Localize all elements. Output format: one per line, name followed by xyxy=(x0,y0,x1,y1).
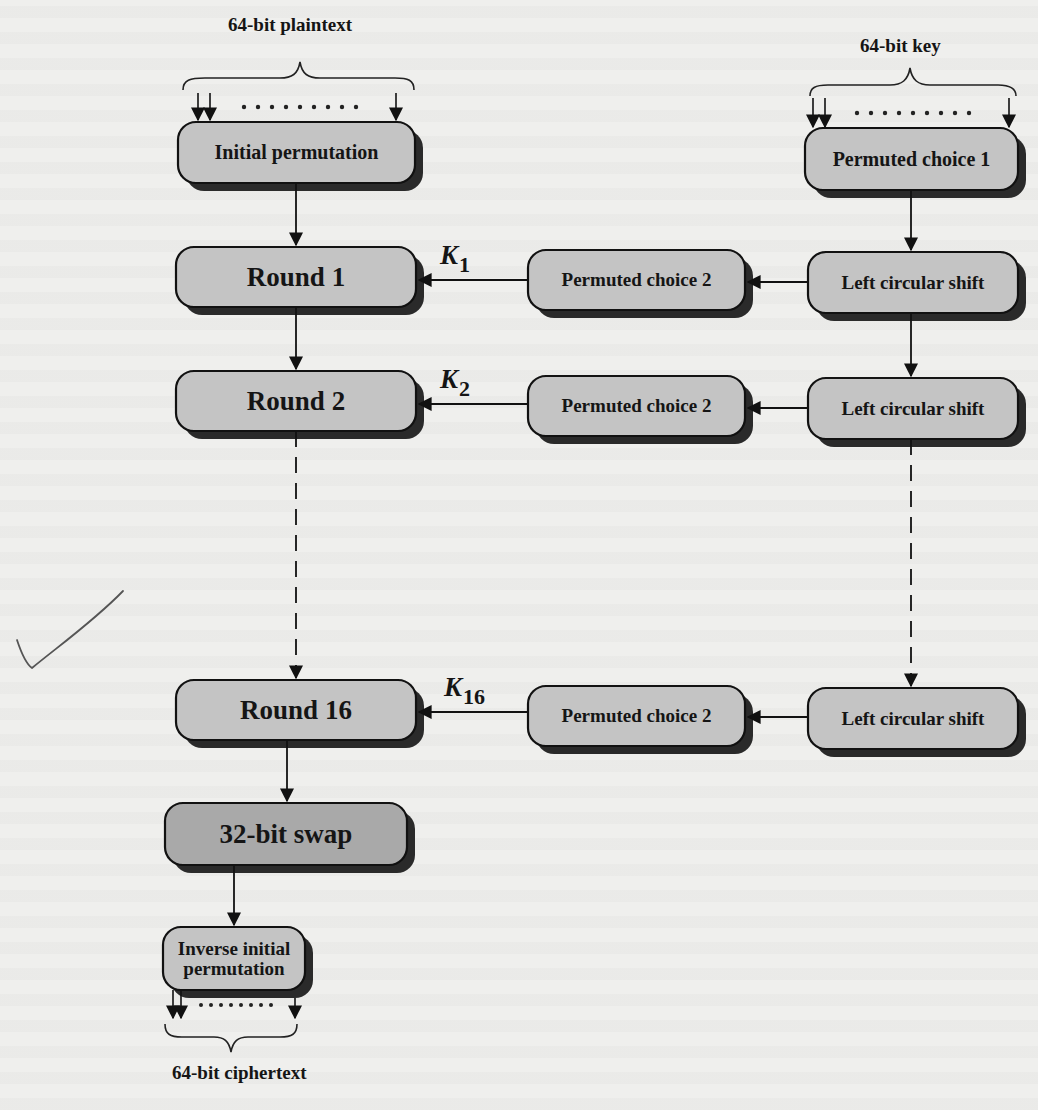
checkmark-annotation-icon xyxy=(17,591,123,668)
inverse-initial-permutation-label: Inverse initial permutation xyxy=(172,927,296,990)
plaintext-label: 64-bit plaintext xyxy=(228,14,352,36)
left-circular-shift-label-1: Left circular shift xyxy=(808,252,1018,313)
ciphertext-brace xyxy=(165,1024,297,1052)
subkey-k1-label: K1 xyxy=(440,240,470,271)
swap-32bit-label: 32-bit swap xyxy=(165,803,407,865)
subkey-k1-symbol: K xyxy=(440,240,458,270)
ciphertext-label: 64-bit ciphertext xyxy=(172,1062,307,1084)
round-1-label: Round 1 xyxy=(176,247,416,307)
permuted-choice-2-label-2: Permuted choice 2 xyxy=(528,376,745,436)
left-circular-shift-label-2: Left circular shift xyxy=(808,378,1018,439)
permuted-choice-2-label-1: Permuted choice 2 xyxy=(528,250,745,310)
subkey-k16-index: 16 xyxy=(463,684,485,709)
subkey-k2-symbol: K xyxy=(440,364,458,394)
ciphertext-bit-dots xyxy=(199,1003,273,1007)
left-circular-shift-label-16: Left circular shift xyxy=(808,688,1018,749)
round-16-label: Round 16 xyxy=(176,680,416,740)
subkey-connectors xyxy=(419,280,808,717)
subkey-k2-index: 2 xyxy=(459,376,470,401)
initial-permutation-label: Initial permutation xyxy=(178,122,415,183)
subkey-k2-label: K2 xyxy=(440,364,470,395)
permuted-choice-1-label: Permuted choice 1 xyxy=(805,128,1018,190)
plaintext-brace xyxy=(183,62,414,90)
subkey-k1-index: 1 xyxy=(459,252,470,277)
permuted-choice-2-label-16: Permuted choice 2 xyxy=(528,686,745,746)
subkey-k16-label: K16 xyxy=(444,672,485,703)
key-brace xyxy=(810,68,1016,96)
round-2-label: Round 2 xyxy=(176,371,416,431)
key-bit-dots xyxy=(855,111,971,115)
subkey-k16-symbol: K xyxy=(444,672,462,702)
key-label: 64-bit key xyxy=(860,35,941,57)
plaintext-input-arrows xyxy=(198,93,396,120)
plaintext-bit-dots xyxy=(242,105,358,109)
